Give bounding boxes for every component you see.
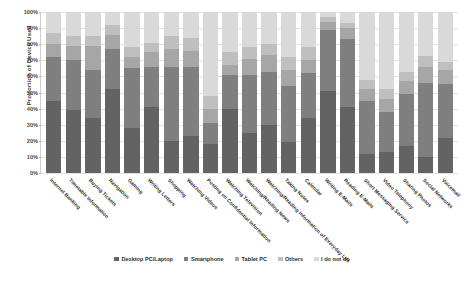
x-label-slot: Taking Notes xyxy=(281,176,296,246)
bar-segment xyxy=(203,12,218,96)
bar-column[interactable] xyxy=(124,12,139,173)
bar-column[interactable] xyxy=(105,12,120,173)
bar-column[interactable] xyxy=(379,12,394,173)
x-label-slot: Watching/Reading Information of Everyday… xyxy=(261,176,276,246)
bar-segment xyxy=(124,57,139,68)
y-axis-tick-label: 70% xyxy=(27,57,38,63)
bar-segment xyxy=(46,12,61,33)
bar-segment xyxy=(301,118,316,173)
bar-segment xyxy=(222,109,237,173)
bar-segment xyxy=(105,89,120,173)
bar-segment xyxy=(359,154,374,173)
bar-segment xyxy=(301,12,316,47)
bar-segment xyxy=(144,12,159,43)
bar-segment xyxy=(85,36,100,46)
bar-segment xyxy=(66,36,81,46)
bar-segment xyxy=(379,89,394,99)
x-label-slot: Voicemail xyxy=(438,176,453,246)
x-label-slot: Reading E-Mails xyxy=(339,176,354,246)
bar-column[interactable] xyxy=(320,12,335,173)
bar-column[interactable] xyxy=(183,12,198,173)
bar-segment xyxy=(124,128,139,173)
bar-segment xyxy=(222,12,237,52)
bar-segment xyxy=(281,86,296,142)
x-label-slot: Watching/Reading News xyxy=(241,176,256,246)
bar-column[interactable] xyxy=(66,12,81,173)
bar-segment xyxy=(105,35,120,49)
bar-segment xyxy=(222,65,237,75)
bar-segment xyxy=(379,152,394,173)
bar-segment xyxy=(164,141,179,173)
y-axis-tick-label: 60% xyxy=(27,73,38,79)
bar-segment xyxy=(261,72,276,125)
bar-segment xyxy=(399,81,414,94)
x-label-slot: Watching Videos xyxy=(182,176,197,246)
bar-column[interactable] xyxy=(222,12,237,173)
bar-segment xyxy=(124,47,139,57)
bar-segment xyxy=(301,60,316,73)
bar-column[interactable] xyxy=(85,12,100,173)
x-label-slot: Writing Letters xyxy=(143,176,158,246)
bar-segment xyxy=(340,39,355,107)
legend-item[interactable]: Desktop PC/Laptop xyxy=(114,256,173,262)
bar-segment xyxy=(203,123,218,144)
bar-segment xyxy=(379,112,394,152)
bar-column[interactable] xyxy=(438,12,453,173)
legend-item[interactable]: Others xyxy=(278,256,303,262)
bar-segment xyxy=(438,138,453,173)
x-label-slot: Shopping xyxy=(163,176,178,246)
bar-segment xyxy=(242,75,257,133)
x-label-slot: Navigation xyxy=(104,176,119,246)
bar-segment xyxy=(418,83,433,157)
legend-item[interactable]: Smartphone xyxy=(184,256,224,262)
bar-segment xyxy=(261,44,276,55)
bar-column[interactable] xyxy=(359,12,374,173)
bar-column[interactable] xyxy=(164,12,179,173)
chart-legend: Desktop PC/LaptopSmartphoneTablet PCOthe… xyxy=(0,256,464,262)
legend-item[interactable]: Tablet PC xyxy=(235,256,267,262)
bar-segment xyxy=(340,107,355,173)
bar-segment xyxy=(183,67,198,136)
bar-segment xyxy=(164,67,179,141)
bar-segment xyxy=(340,12,355,23)
bar-segment xyxy=(222,52,237,65)
x-label-slot: Sharing Photos xyxy=(398,176,413,246)
legend-label: Desktop PC/Laptop xyxy=(121,256,173,262)
bar-column[interactable] xyxy=(281,12,296,173)
x-label-slot: Video Telephony xyxy=(379,176,394,246)
bar-segment xyxy=(399,94,414,146)
bar-segment xyxy=(281,142,296,173)
legend-swatch-icon xyxy=(278,257,283,262)
bar-segment xyxy=(281,70,296,86)
bar-column[interactable] xyxy=(340,12,355,173)
bar-segment xyxy=(379,12,394,89)
bar-segment xyxy=(340,28,355,39)
bar-column[interactable] xyxy=(301,12,316,173)
legend-item[interactable]: I do not do xyxy=(314,256,350,262)
x-label-slot: Buying Tickets xyxy=(84,176,99,246)
bar-segment xyxy=(105,12,120,25)
bar-segment xyxy=(105,49,120,89)
bar-column[interactable] xyxy=(399,12,414,173)
bar-column[interactable] xyxy=(242,12,257,173)
bar-segment xyxy=(418,157,433,173)
bar-series-group xyxy=(41,12,458,173)
y-axis-tick-label: 90% xyxy=(27,25,38,31)
bar-column[interactable] xyxy=(418,12,433,173)
bar-column[interactable] xyxy=(144,12,159,173)
x-label-slot: Short Messaging Service xyxy=(359,176,374,246)
bar-segment xyxy=(438,62,453,70)
x-label-slot: Watching Television xyxy=(222,176,237,246)
stacked-bar-chart: Proportion of Device Used 100%90%80%70%6… xyxy=(0,0,464,285)
bar-segment xyxy=(438,70,453,84)
bar-column[interactable] xyxy=(203,12,218,173)
bar-column[interactable] xyxy=(261,12,276,173)
bar-column[interactable] xyxy=(46,12,61,173)
bar-segment xyxy=(261,12,276,44)
bar-segment xyxy=(261,125,276,173)
bar-segment xyxy=(320,30,335,91)
x-label-slot: Social Networks xyxy=(418,176,433,246)
bar-segment xyxy=(418,67,433,83)
x-label-slot: Gaming xyxy=(124,176,139,246)
bar-segment xyxy=(281,57,296,70)
